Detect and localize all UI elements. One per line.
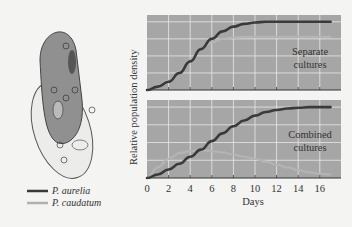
x-tick-label: 10 [250,183,261,194]
panel-label-combined-1: Combined [288,129,332,140]
panel-label-combined-2: cultures [293,142,326,153]
x-tick-label: 2 [166,183,171,194]
x-axis-label: Days [242,196,264,207]
legend: P. aurelia P. caudatum [27,185,101,208]
legend-aurelia: P. aurelia [51,185,90,196]
figure: P. aurelia P. caudatum Relative populati… [0,0,352,227]
x-tick-label: 14 [293,183,304,194]
x-tick-label: 4 [188,183,194,194]
panel-label-separate-2: cultures [293,59,326,70]
panel-label-separate-1: Separate [292,46,328,57]
x-tick-label: 0 [144,183,149,194]
x-tick-label: 6 [209,183,214,194]
x-tick-label: 8 [231,183,236,194]
y-axis-label: Relative population density [128,49,139,165]
x-tick-label: 12 [271,183,282,194]
paramecium-illustration [20,32,104,186]
x-axis-ticks: 0246810121416 [144,183,325,194]
legend-caudatum: P. caudatum [51,197,101,208]
x-tick-label: 16 [315,183,326,194]
